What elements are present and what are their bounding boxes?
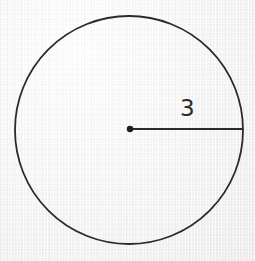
center-point-dot [127, 126, 133, 132]
figure-canvas: 3 [0, 0, 255, 261]
radius-length-label: 3 [180, 97, 195, 120]
circle-diagram [0, 0, 255, 261]
